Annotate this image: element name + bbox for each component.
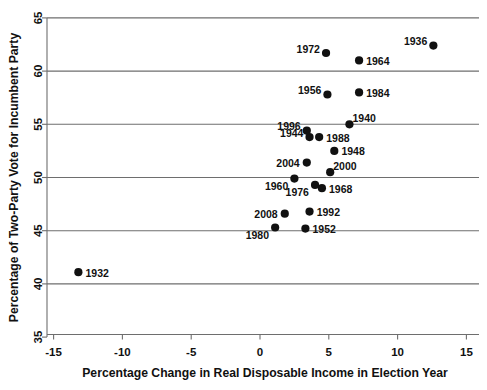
data-point-1960[interactable] [290, 174, 298, 182]
data-point-1932[interactable] [74, 268, 82, 276]
y-axis-title: Percentage of Two-Party Vote for Incumbe… [7, 33, 21, 323]
y-tick-label-65: 65 [32, 11, 44, 24]
x-axis-title: Percentage Change in Real Disposable Inc… [82, 366, 448, 380]
point-label-1940: 1940 [353, 112, 377, 124]
data-point-2008[interactable] [281, 210, 289, 218]
y-tick-label-45: 45 [32, 224, 44, 237]
data-point-1936[interactable] [429, 41, 437, 49]
data-point-1996[interactable] [303, 127, 311, 135]
x-tick-label-0: 0 [257, 346, 263, 358]
x-tick-label--10: -10 [114, 346, 131, 358]
data-point-1992[interactable] [305, 207, 313, 215]
data-point-1988[interactable] [315, 133, 323, 141]
point-label-1932: 1932 [85, 267, 109, 279]
plot-canvas: -15-10-5051015 35404550556065 1932193619… [0, 0, 487, 390]
point-label-1952: 1952 [313, 223, 337, 235]
point-label-1996: 1996 [277, 120, 301, 132]
data-point-2004[interactable] [303, 159, 311, 167]
point-label-1948: 1948 [341, 145, 365, 157]
x-tick-label-5: 5 [326, 346, 333, 358]
point-label-1936: 1936 [404, 35, 428, 47]
point-label-1984: 1984 [366, 87, 390, 99]
x-tick-labels-group: -15-10-5051015 [45, 346, 473, 358]
x-tick-label-15: 15 [460, 346, 473, 358]
point-label-1968: 1968 [329, 183, 353, 195]
point-label-1972: 1972 [297, 43, 321, 55]
data-point-1948[interactable] [330, 147, 338, 155]
point-label-2008: 2008 [254, 208, 278, 220]
point-label-1976: 1976 [286, 186, 310, 198]
data-point-1964[interactable] [355, 56, 363, 64]
data-point-1980[interactable] [271, 223, 279, 231]
point-label-1956: 1956 [298, 84, 322, 96]
data-point-1952[interactable] [301, 224, 309, 232]
x-tick-label--5: -5 [186, 346, 197, 358]
point-label-1992: 1992 [317, 206, 341, 218]
x-tick-label-10: 10 [391, 346, 404, 358]
y-tick-label-40: 40 [32, 278, 44, 291]
gridlines-group [47, 18, 479, 284]
data-point-1976[interactable] [311, 181, 319, 189]
y-tick-label-55: 55 [32, 117, 44, 130]
point-label-1988: 1988 [326, 132, 350, 144]
y-tick-label-50: 50 [32, 171, 44, 184]
data-point-1984[interactable] [355, 88, 363, 96]
data-points-group [74, 41, 437, 276]
scatter-plot-figure: -15-10-5051015 35404550556065 1932193619… [0, 0, 487, 390]
y-tick-label-35: 35 [32, 330, 44, 343]
y-tick-labels-group: 35404550556065 [32, 11, 44, 344]
point-label-2004: 2004 [276, 157, 300, 169]
point-label-1964: 1964 [366, 55, 390, 67]
x-tick-marks-group [54, 335, 467, 340]
y-tick-label-60: 60 [32, 65, 44, 78]
data-point-1956[interactable] [323, 90, 331, 98]
point-label-2000: 2000 [333, 160, 357, 172]
x-tick-label--15: -15 [45, 346, 62, 358]
data-point-1972[interactable] [322, 49, 330, 57]
point-label-1980: 1980 [246, 229, 270, 241]
axis-titles-group: Percentage Change in Real Disposable Inc… [7, 33, 448, 380]
